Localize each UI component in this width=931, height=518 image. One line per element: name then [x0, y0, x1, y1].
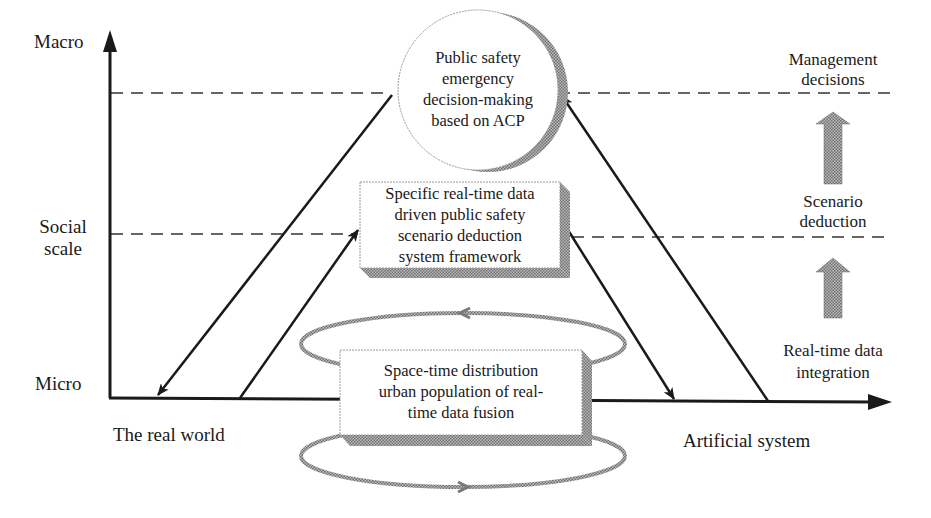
stage-label-scenario-deduction: Scenario deduction — [773, 192, 893, 232]
stage-label-line: integration — [758, 362, 908, 384]
stage-label-management-decisions: Management decisions — [773, 50, 893, 90]
middle-node-line: Specific real-time data — [360, 183, 560, 204]
bottom-node-line: Space-time distribution — [340, 360, 582, 381]
axis-label-social-line1: Social — [34, 216, 92, 238]
x-label-real-world: The real world — [113, 424, 225, 446]
middle-node-text: Specific real-time data driven public sa… — [360, 183, 560, 267]
bottom-node-text: Space-time distribution urban population… — [340, 360, 582, 423]
stage-arrow-lower — [816, 258, 850, 318]
stage-label-line: Management — [773, 50, 893, 70]
stage-arrow-upper — [816, 112, 850, 184]
stage-label-line: Scenario — [773, 192, 893, 212]
top-node-line: decision-making — [398, 89, 558, 110]
top-node-text: Public safety emergency decision-making … — [398, 47, 558, 131]
middle-node-line: scenario deduction — [360, 225, 560, 246]
y-axis — [103, 30, 117, 398]
axis-label-social-scale: Social scale — [34, 216, 92, 260]
top-node-line: emergency — [398, 68, 558, 89]
stage-label-line: Real-time data — [758, 340, 908, 362]
stage-label-line: deduction — [773, 212, 893, 232]
bottom-node-line: time data fusion — [340, 402, 582, 423]
axis-label-micro: Micro — [35, 373, 81, 395]
axis-label-macro: Macro — [34, 31, 84, 53]
axis-label-social-line2: scale — [34, 238, 92, 260]
bottom-node-line: urban population of real- — [340, 381, 582, 402]
middle-node-line: driven public safety — [360, 204, 560, 225]
stage-label-line: decisions — [773, 70, 893, 90]
top-node-line: based on ACP — [398, 110, 558, 131]
x-label-artificial-system: Artificial system — [683, 430, 810, 452]
top-node-line: Public safety — [398, 47, 558, 68]
middle-node-line: system framework — [360, 246, 560, 267]
stage-label-realtime-integration: Real-time data integration — [758, 340, 908, 384]
arrow-artificial-to-top — [562, 96, 768, 401]
